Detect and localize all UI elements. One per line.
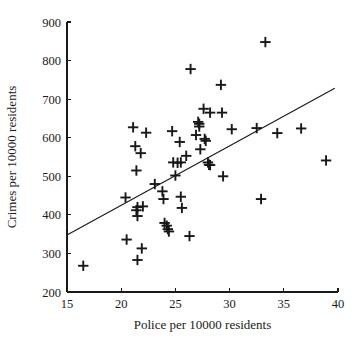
plot-canvas: 200300400500600700800900 152025303540 Po… <box>0 0 361 349</box>
data-point-marker <box>136 148 146 158</box>
x-tick-label: 30 <box>223 297 236 311</box>
data-point-marker <box>216 80 226 90</box>
y-tick-label: 400 <box>42 208 61 222</box>
data-point-marker <box>256 194 266 204</box>
x-tick-label: 35 <box>278 297 291 311</box>
x-tick-label: 40 <box>332 297 345 311</box>
data-point-marker <box>272 128 282 138</box>
data-point-marker <box>128 122 138 132</box>
data-point-marker <box>185 64 195 74</box>
data-point-marker <box>201 136 211 146</box>
y-tick-label: 300 <box>42 247 61 261</box>
data-point-marker <box>176 192 186 202</box>
data-point-marker <box>137 243 147 253</box>
data-point-marker <box>227 124 237 134</box>
data-point-marker <box>184 231 194 241</box>
x-tick-label: 15 <box>61 297 74 311</box>
data-point-marker <box>150 179 160 189</box>
y-tick-label: 600 <box>42 131 61 145</box>
trendline-group <box>67 88 335 235</box>
x-tick-label: 20 <box>115 297 128 311</box>
data-point-marker <box>131 165 141 175</box>
data-point-marker <box>296 123 306 133</box>
data-point-marker <box>260 37 270 47</box>
regression-line <box>67 88 335 235</box>
data-point-marker <box>217 107 227 117</box>
y-tick-label: 800 <box>42 54 61 68</box>
scatter-plot-figure: 200300400500600700800900 152025303540 Po… <box>0 0 361 349</box>
data-point-marker <box>157 186 167 196</box>
y-tick-label: 200 <box>42 286 61 300</box>
axes-group <box>67 22 338 292</box>
data-point-marker <box>193 117 203 127</box>
data-point-marker <box>132 211 142 221</box>
data-point-marker <box>181 151 191 161</box>
data-point-marker <box>132 255 142 265</box>
data-point-marker <box>78 261 88 271</box>
data-points-group <box>78 37 331 271</box>
y-tick-label: 900 <box>42 16 61 30</box>
y-tick-label: 700 <box>42 93 61 107</box>
data-point-marker <box>195 144 205 154</box>
data-point-marker <box>321 155 331 165</box>
data-point-marker <box>141 128 151 138</box>
data-point-marker <box>121 234 131 244</box>
data-point-marker <box>130 141 140 151</box>
x-axis-title: Police per 10000 residents <box>134 317 272 332</box>
data-point-marker <box>167 126 177 136</box>
data-point-marker <box>177 203 187 213</box>
data-point-marker <box>175 137 185 147</box>
x-tick-label: 25 <box>169 297 182 311</box>
data-point-marker <box>158 194 168 204</box>
y-tick-label: 500 <box>42 170 61 184</box>
y-axis-title: Crimes per 10000 residents <box>4 86 19 229</box>
data-point-marker <box>218 171 228 181</box>
